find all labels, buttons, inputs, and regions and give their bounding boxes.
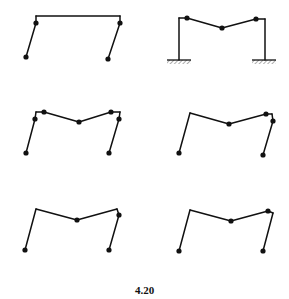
panel-combined-mechanism-a [22, 209, 121, 253]
frame-member [187, 18, 222, 28]
plastic-hinge-icon [184, 15, 189, 20]
plastic-hinge-icon [219, 25, 224, 30]
frame-member [109, 119, 119, 153]
plastic-hinge-icon [260, 248, 265, 253]
plastic-hinge-icon [228, 218, 233, 223]
plastic-hinge-icon [22, 247, 27, 252]
panel-combined-mechanism-b [176, 208, 273, 253]
frame-member [179, 210, 190, 251]
frame-member [79, 112, 111, 122]
frame-member [263, 121, 273, 155]
frame-member [263, 213, 273, 251]
frame-member [231, 211, 268, 221]
plastic-hinge-icon [41, 109, 46, 114]
plastic-hinge-icon [76, 119, 81, 124]
panel-combined-mechanism-right [176, 111, 275, 157]
plastic-hinge-icon [117, 20, 122, 25]
panel-fixed-frame [23, 16, 122, 62]
plastic-hinge-icon [106, 247, 111, 252]
plastic-hinge-icon [33, 20, 38, 25]
frame-member [190, 210, 231, 221]
frame-member [77, 209, 117, 220]
frame-member [26, 119, 35, 153]
plastic-hinge-icon [263, 111, 268, 116]
figure-caption: 4.20 [0, 284, 289, 296]
plastic-hinge-icon [23, 54, 28, 59]
plastic-hinge-icon [253, 16, 258, 21]
plastic-hinge-icon [116, 116, 121, 121]
plastic-hinge-icon [105, 56, 110, 61]
plastic-hinge-icon [265, 208, 270, 213]
frame-member [222, 19, 256, 28]
frame-member [109, 215, 119, 250]
frame-member [25, 209, 36, 250]
frame-member [36, 209, 77, 220]
plastic-hinge-icon [74, 217, 79, 222]
plastic-hinge-icon [270, 118, 275, 123]
plastic-hinge-icon [176, 248, 181, 253]
plastic-hinge-icon [226, 121, 231, 126]
panel-beam-mechanism-fixed-base [167, 15, 276, 64]
frame-member [229, 114, 266, 124]
frame-member [44, 112, 79, 122]
plastic-hinge-icon [176, 150, 181, 155]
frame-member [179, 113, 190, 153]
plastic-hinge-icon [23, 150, 28, 155]
plastic-hinge-icon [260, 152, 265, 157]
panel-combined-mechanism-6-hinge [23, 109, 121, 155]
frame-mechanisms-diagram [0, 0, 289, 299]
frame-member [26, 23, 36, 57]
plastic-hinge-icon [116, 212, 121, 217]
frame-member [190, 113, 229, 124]
plastic-hinge-icon [32, 116, 37, 121]
plastic-hinge-icon [106, 150, 111, 155]
frame-member [108, 23, 120, 59]
plastic-hinge-icon [108, 109, 113, 114]
